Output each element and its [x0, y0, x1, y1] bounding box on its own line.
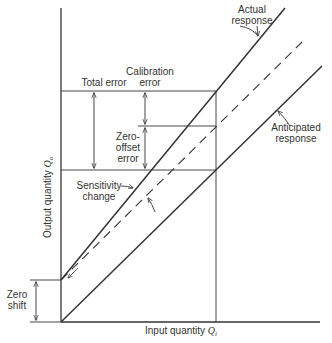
anticipated-response-label-line2: response	[275, 133, 317, 144]
calibration-error-diagram: Actual response Anticipated response Tot…	[0, 0, 332, 343]
anticipated-response-label-line1: Anticipated	[271, 122, 320, 133]
actual-response-label-line2: response	[231, 15, 273, 26]
total-error-label: Total error	[81, 77, 127, 88]
sensitivity-change-label-line1: Sensitivity	[76, 180, 121, 191]
zero-offset-error-label-line3: error	[117, 153, 139, 164]
sensitivity-dashed-leader	[148, 198, 155, 212]
zero-offset-error-label-line2: offset	[116, 142, 140, 153]
actual-response-line	[61, 8, 285, 280]
y-axis-label: Output quantity Qo	[42, 156, 55, 238]
zero-offset-error-label-line1: Zero-	[116, 131, 140, 142]
zero-shift-label-line2: shift	[8, 300, 27, 311]
zero-shift-label-line1: Zero	[7, 289, 28, 300]
actual-response-label-line1: Actual	[238, 4, 266, 15]
x-axis-label: Input quantity Qi	[145, 325, 217, 338]
calibration-error-label-line2: error	[139, 77, 161, 88]
actual-response-leader-path	[240, 26, 258, 36]
sensitivity-change-leader	[121, 186, 133, 188]
sensitivity-change-label-line2: change	[83, 191, 116, 202]
calibration-error-label-line1: Calibration	[126, 66, 174, 77]
